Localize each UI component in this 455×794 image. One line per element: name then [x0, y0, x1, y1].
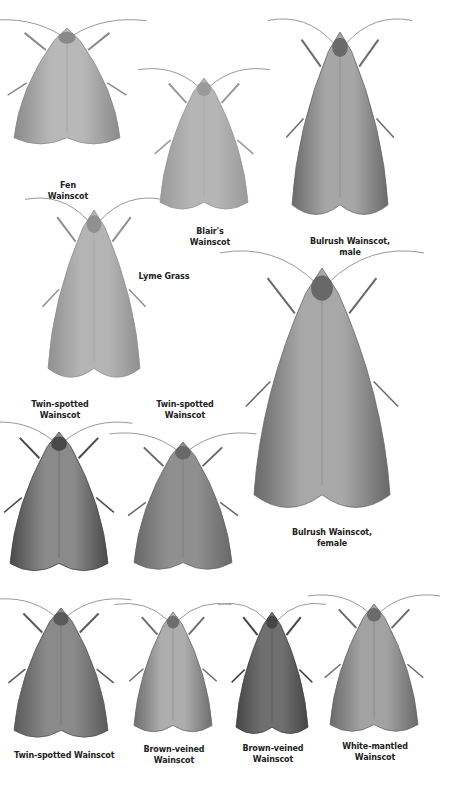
moth-illustration-brown-veined-wainscot-1	[134, 612, 212, 738]
caption-lyme-grass: Lyme Grass	[136, 271, 192, 282]
moth-illustration-white-mantled-wainscot	[330, 604, 418, 738]
moth-illustration-bulrush-wainscot-male	[292, 32, 388, 224]
moth-illustration-brown-veined-wainscot-2	[236, 612, 308, 740]
caption-brown-veined-wainscot-2: Brown-veinedWainscot	[233, 743, 313, 765]
caption-line: Twin-spotted	[20, 399, 100, 410]
caption-line: Bulrush Wainscot,	[300, 236, 400, 247]
caption-line: Brown-veined	[134, 744, 214, 755]
caption-twin-spotted-wainscot-3: Twin-spotted Wainscot	[14, 750, 114, 761]
caption-line: Twin-spotted	[145, 399, 225, 410]
caption-line: Wainscot	[335, 752, 415, 763]
moth-illustration-lyme-grass	[48, 210, 140, 386]
caption-line: White-mantled	[335, 741, 415, 752]
caption-line: Wainscot	[233, 754, 313, 765]
caption-brown-veined-wainscot-1: Brown-veinedWainscot	[134, 744, 214, 766]
caption-line: Wainscot	[145, 410, 225, 421]
moth-illustration-twin-spotted-wainscot-1	[10, 432, 108, 578]
caption-line: Fen	[40, 180, 96, 191]
caption-line: Wainscot	[20, 410, 100, 421]
caption-line: Brown-veined	[233, 743, 313, 754]
caption-blairs-wainscot: Blair'sWainscot	[180, 226, 240, 248]
caption-bulrush-wainscot-male: Bulrush Wainscot,male	[300, 236, 400, 258]
caption-twin-spotted-wainscot-2: Twin-spottedWainscot	[145, 399, 225, 421]
caption-line: Wainscot	[134, 755, 214, 766]
moth-illustration-twin-spotted-wainscot-2	[134, 442, 232, 576]
caption-line: female	[282, 538, 382, 549]
caption-white-mantled-wainscot: White-mantledWainscot	[335, 741, 415, 763]
caption-line: Twin-spotted Wainscot	[14, 750, 114, 761]
caption-line: Bulrush Wainscot,	[282, 527, 382, 538]
caption-line: Lyme Grass	[136, 271, 192, 282]
caption-bulrush-wainscot-female: Bulrush Wainscot,female	[282, 527, 382, 549]
moth-illustration-fen-wainscot	[14, 28, 120, 150]
moth-illustration-bulrush-wainscot-female	[254, 268, 390, 520]
caption-line: Wainscot	[180, 237, 240, 248]
caption-line: Wainscot	[40, 191, 96, 202]
caption-twin-spotted-wainscot-1: Twin-spottedWainscot	[20, 399, 100, 421]
caption-line: Blair's	[180, 226, 240, 237]
moth-illustration-twin-spotted-wainscot-3	[14, 608, 108, 744]
moth-illustration-blairs-wainscot	[160, 78, 248, 216]
